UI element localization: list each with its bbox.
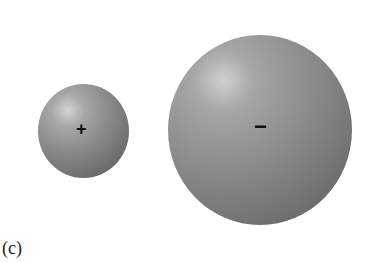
plus-sign: + xyxy=(76,120,87,138)
figure-label: (c) xyxy=(2,238,22,259)
minus-sign: − xyxy=(254,116,267,138)
